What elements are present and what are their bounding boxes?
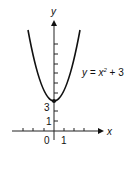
x-tick-label-0: 0 bbox=[44, 135, 50, 146]
y-ticks bbox=[54, 44, 58, 121]
parabola-chart: y x 3 1 0 1 y = x2 + 3 bbox=[0, 0, 133, 169]
y-axis-arrow-icon bbox=[51, 20, 57, 26]
x-axis-label: x bbox=[106, 126, 113, 137]
vertex-point bbox=[52, 99, 56, 103]
y-axis-label: y bbox=[50, 6, 57, 17]
x-tick-label-1: 1 bbox=[61, 135, 67, 146]
y-tick-label-1: 1 bbox=[46, 116, 52, 127]
x-axis-arrow-icon bbox=[98, 128, 104, 134]
equation-label: y = x2 + 3 bbox=[81, 67, 124, 78]
y-tick-label-3: 3 bbox=[44, 102, 50, 113]
